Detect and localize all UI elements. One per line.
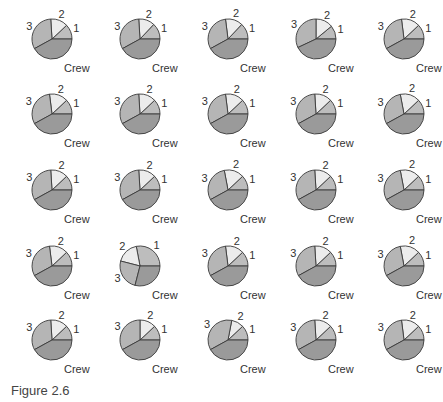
slice-label-3: 3 bbox=[290, 248, 296, 259]
pie-chart: 123Crew bbox=[272, 228, 360, 304]
slice-label-2: 2 bbox=[323, 310, 329, 321]
slice-label-crew: Crew bbox=[328, 63, 354, 74]
slice-label-crew: Crew bbox=[64, 364, 90, 375]
slice-label-3: 3 bbox=[26, 172, 32, 183]
pie-chart: 123Crew bbox=[184, 228, 272, 304]
slice-label-2: 2 bbox=[147, 84, 153, 95]
slice-label-3: 3 bbox=[114, 21, 120, 32]
slice-label-3: 3 bbox=[290, 322, 296, 333]
slice-label-2: 2 bbox=[409, 235, 415, 246]
slice-label-crew: Crew bbox=[416, 214, 442, 225]
slice-label-1: 1 bbox=[337, 98, 343, 109]
slice-label-1: 1 bbox=[73, 250, 79, 261]
slice-label-1: 1 bbox=[161, 98, 167, 109]
pie-chart: 123Crew bbox=[8, 152, 96, 228]
slice-label-1: 1 bbox=[249, 23, 255, 34]
slice-label-3: 3 bbox=[202, 173, 208, 184]
slice-label-2: 2 bbox=[234, 84, 240, 95]
slice-label-1: 1 bbox=[249, 98, 255, 109]
slice-label-2: 2 bbox=[59, 310, 65, 321]
slice-label-3: 3 bbox=[378, 97, 384, 108]
slice-label-3: 3 bbox=[378, 173, 384, 184]
slice-label-crew: Crew bbox=[152, 290, 178, 301]
slice-label-2: 2 bbox=[323, 84, 329, 95]
pie-chart: 123Crew bbox=[272, 302, 360, 378]
slice-label-crew: Crew bbox=[64, 138, 90, 149]
slice-label-crew: Crew bbox=[240, 290, 266, 301]
pie-chart: 123Crew bbox=[184, 302, 272, 378]
slice-label-1: 1 bbox=[249, 250, 255, 261]
pie-chart: 123Crew bbox=[360, 76, 443, 152]
slice-label-2: 2 bbox=[59, 160, 65, 171]
slice-label-crew: Crew bbox=[240, 63, 266, 74]
pie-chart: 123Crew bbox=[96, 302, 184, 378]
slice-label-crew: Crew bbox=[152, 214, 178, 225]
slice-label-crew: Crew bbox=[416, 364, 442, 375]
pie-chart: 123Crew bbox=[8, 228, 96, 304]
pie-chart: 123Crew bbox=[8, 1, 96, 77]
slice-label-3: 3 bbox=[114, 172, 120, 183]
slice-label-3: 3 bbox=[291, 19, 297, 30]
slice-label-2: 2 bbox=[323, 160, 329, 171]
slice-label-3: 3 bbox=[202, 21, 208, 32]
slice-label-2: 2 bbox=[409, 159, 415, 170]
slice-label-crew: Crew bbox=[416, 138, 442, 149]
slice-label-crew: Crew bbox=[152, 138, 178, 149]
pie-chart: 123Crew bbox=[184, 152, 272, 228]
pie-chart: 123Crew bbox=[96, 228, 184, 304]
pie-chart: 123Crew bbox=[8, 302, 96, 378]
slice-crew bbox=[135, 266, 160, 286]
slice-label-3: 3 bbox=[290, 96, 296, 107]
slice-label-crew: Crew bbox=[416, 63, 442, 74]
slice-label-3: 3 bbox=[378, 249, 384, 260]
slice-label-2: 2 bbox=[233, 8, 239, 19]
pie-chart: 123Crew bbox=[360, 228, 443, 304]
slice-label-2: 2 bbox=[147, 310, 153, 321]
slice-label-2: 2 bbox=[59, 9, 65, 20]
slice-label-crew: Crew bbox=[152, 63, 178, 74]
slice-label-1: 1 bbox=[425, 250, 431, 261]
slice-label-3: 3 bbox=[202, 248, 208, 259]
slice-label-1: 1 bbox=[338, 24, 344, 35]
slice-label-crew: Crew bbox=[64, 63, 90, 74]
slice-label-1: 1 bbox=[161, 174, 167, 185]
slice-label-1: 1 bbox=[425, 23, 431, 34]
slice-label-3: 3 bbox=[114, 96, 120, 107]
slice-label-2: 2 bbox=[324, 10, 330, 21]
slice-label-3: 3 bbox=[378, 322, 384, 333]
slice-label-crew: Crew bbox=[240, 364, 266, 375]
slice-label-3: 3 bbox=[378, 21, 384, 32]
slice-label-2: 2 bbox=[119, 241, 125, 252]
slice-label-1: 1 bbox=[73, 98, 79, 109]
slice-label-1: 1 bbox=[73, 174, 79, 185]
slice-label-1: 1 bbox=[337, 250, 343, 261]
pie-chart: 123Crew bbox=[96, 1, 184, 77]
pie-chart: 123Crew bbox=[360, 302, 443, 378]
pie-chart: 123Crew bbox=[360, 1, 443, 77]
pie-chart-grid: 123Crew123Crew123Crew123Crew123Crew123Cr… bbox=[0, 0, 443, 402]
slice-label-crew: Crew bbox=[240, 138, 266, 149]
slice-label-3: 3 bbox=[26, 322, 32, 333]
slice-label-3: 3 bbox=[290, 172, 296, 183]
pie-chart: 123Crew bbox=[96, 76, 184, 152]
slice-label-2: 2 bbox=[410, 9, 416, 20]
slice-label-2: 2 bbox=[323, 236, 329, 247]
slice-label-2: 2 bbox=[58, 236, 64, 247]
slice-label-3: 3 bbox=[26, 96, 32, 107]
slice-label-2: 2 bbox=[233, 159, 239, 170]
slice-label-crew: Crew bbox=[328, 290, 354, 301]
slice-label-crew: Crew bbox=[328, 138, 354, 149]
slice-label-1: 1 bbox=[337, 174, 343, 185]
pie-chart: 123Crew bbox=[360, 152, 443, 228]
slice-label-1: 1 bbox=[161, 324, 167, 335]
slice-label-3: 3 bbox=[26, 248, 32, 259]
slice-label-1: 1 bbox=[154, 240, 160, 251]
slice-label-crew: Crew bbox=[416, 290, 442, 301]
slice-label-1: 1 bbox=[73, 23, 79, 34]
pie-chart: 123Crew bbox=[184, 1, 272, 77]
slice-label-2: 2 bbox=[409, 83, 415, 94]
pie-chart: 123Crew bbox=[272, 1, 360, 77]
pie-chart: 123Crew bbox=[272, 76, 360, 152]
slice-label-2: 2 bbox=[146, 9, 152, 20]
slice-label-2: 2 bbox=[58, 84, 64, 95]
